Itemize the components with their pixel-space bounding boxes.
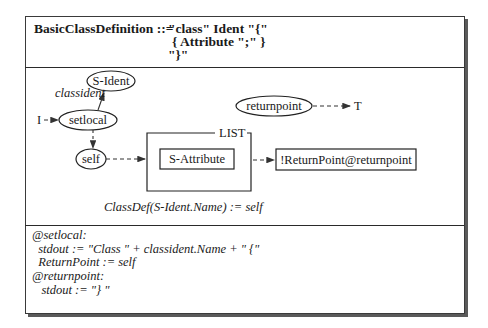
action-line-3: ReturnPoint := self (32, 256, 136, 269)
classident-label: classident (55, 86, 106, 100)
action-line-5: stdout := "} " (32, 284, 109, 297)
node-self: self (76, 149, 106, 169)
action-line-2: stdout := "Class " + classident.Name + "… (32, 243, 259, 256)
classdef-assignment: ClassDef(S-Ident.Name) := self (104, 200, 264, 214)
action-line-1: @setlocal: (32, 229, 87, 242)
node-setlocal: setlocal (59, 110, 117, 130)
node-returnpoint: returnpoint (236, 96, 312, 116)
list-label: LIST (219, 126, 246, 140)
node-return-target: !ReturnPoint@returnpoint (276, 149, 416, 170)
node-return-target-label: !ReturnPoint@returnpoint (280, 153, 412, 167)
node-self-label: self (82, 152, 101, 166)
input-label: I (37, 113, 41, 127)
action-line-4: @returnpoint: (32, 270, 104, 283)
node-s-attribute: S-Attribute (160, 149, 234, 169)
section-divider-bottom (25, 225, 464, 226)
terminal-label: T (354, 99, 362, 113)
node-returnpoint-label: returnpoint (246, 99, 302, 113)
node-s-attribute-label: S-Attribute (169, 152, 226, 166)
node-setlocal-label: setlocal (69, 113, 108, 127)
